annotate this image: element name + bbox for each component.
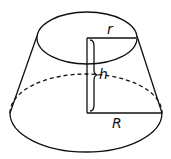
bottom-ellipse-front bbox=[10, 113, 162, 152]
right-slant-edge bbox=[137, 36, 162, 113]
frustum-diagram: r h R bbox=[0, 0, 171, 159]
bottom-radius-label: R bbox=[112, 115, 122, 131]
left-slant-edge bbox=[10, 36, 37, 113]
bottom-ellipse-back-hidden bbox=[10, 74, 162, 113]
height-brace bbox=[90, 40, 97, 111]
height-label: h bbox=[99, 66, 108, 82]
top-radius-label: r bbox=[107, 21, 114, 37]
